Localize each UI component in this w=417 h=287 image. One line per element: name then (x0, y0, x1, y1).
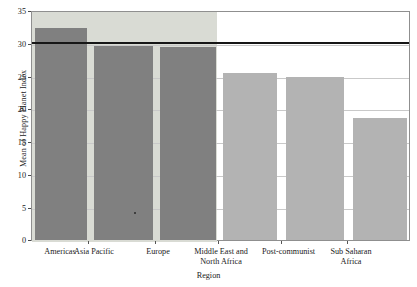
x-tick-mark-3 (218, 241, 219, 244)
x-tick-label-post-communist-line1: Post-communist (251, 247, 326, 257)
x-tick-mark-4 (281, 241, 282, 244)
y-tick-label-5: 5 (4, 204, 26, 213)
x-tick-label-sub-saharan-line2: Africa (316, 257, 386, 267)
plot-area (31, 11, 410, 241)
x-tick-mark-5 (347, 241, 348, 244)
y-axis-title: Mean of Happy Planet Index (19, 24, 28, 214)
x-tick-label-post-communist: Post-communist (251, 247, 326, 257)
bar-asia-pacific (94, 46, 153, 240)
x-tick-label-sub-saharan-africa: Sub Saharan Africa (316, 247, 386, 267)
gridline-25 (32, 78, 409, 79)
y-tick-label-10: 10 (4, 171, 26, 180)
y-tick-label-25: 25 (4, 73, 26, 82)
x-tick-label-mena-line2: North Africa (182, 257, 260, 267)
gridline-30 (32, 45, 409, 46)
y-tick-label-30: 30 (4, 40, 26, 49)
gridline-20 (32, 110, 409, 111)
bar-chart: Mean of Happy Planet Index 35 30 25 20 1… (0, 0, 417, 287)
x-axis-title: Region (0, 271, 417, 280)
bar-post-communist (286, 77, 344, 241)
x-tick-label-mena-line1: Middle East and (182, 247, 260, 257)
reference-line (32, 42, 409, 44)
y-tick-label-0: 0 (4, 236, 26, 245)
x-tick-mark-1 (88, 241, 89, 244)
y-tick-label-15: 15 (4, 138, 26, 147)
x-tick-label-asia-pacific: Asia Pacific (56, 247, 132, 257)
bar-sub-saharan-africa (353, 118, 407, 240)
x-tick-label-asia-pacific-line1: Asia Pacific (56, 247, 132, 257)
y-tick-label-20: 20 (4, 105, 26, 114)
bar-europe (160, 47, 216, 240)
x-tick-label-middle-east-north-africa: Middle East and North Africa (182, 247, 260, 267)
y-tick-label-35: 35 (4, 7, 26, 16)
bar-americas (35, 28, 87, 240)
scan-artifact-dot (134, 212, 136, 214)
x-tick-label-sub-saharan-line1: Sub Saharan (316, 247, 386, 257)
x-tick-mark-2 (155, 241, 156, 244)
bar-middle-east-north-africa (223, 73, 277, 240)
